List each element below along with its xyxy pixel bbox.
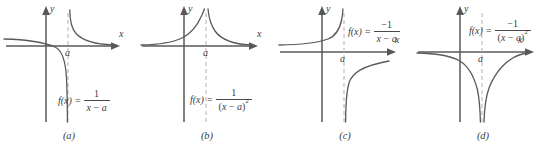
asymptote-tick-label-a: a (478, 54, 483, 64)
y-axis-arrowhead (318, 6, 326, 15)
y-axis-arrowhead (180, 6, 188, 15)
formula-panel-d: f(x) = −1 (x − a)2 (469, 19, 531, 43)
curve-left-branch (279, 9, 343, 45)
denominator-operator: − (381, 33, 392, 44)
formula-denominator: (x − a)2 (216, 99, 252, 112)
formula-equals: = (207, 95, 213, 105)
formula-lhs: f(x) (469, 26, 483, 36)
y-axis-label: y (50, 4, 54, 14)
denominator-operator: − (91, 102, 102, 113)
formula-equals: = (365, 27, 371, 37)
formula-equals: = (486, 26, 492, 36)
formula-fraction: −1 (x − a)2 (495, 19, 531, 43)
formula-lhs: f(x) (190, 95, 204, 105)
denominator-exponent: 2 (245, 97, 249, 105)
curve-right-branch (70, 10, 113, 45)
x-axis-label: x (119, 29, 123, 39)
panel-caption-b: (b) (138, 131, 276, 142)
y-axis-label: y (188, 4, 192, 14)
denominator-parameter: a (392, 33, 397, 44)
y-axis-label: y (464, 4, 468, 14)
formula-fraction: 1 (x − a)2 (216, 88, 252, 112)
denominator-exponent: 2 (524, 28, 528, 36)
formula-numerator: 1 (228, 88, 239, 99)
panel-c: x y a f(x) = −1 x − a (c) (276, 0, 414, 150)
curve-right-branch (208, 9, 251, 45)
formula-denominator: x − a (84, 100, 110, 113)
denominator-parameter: a (102, 102, 107, 113)
y-axis-arrowhead (456, 6, 464, 15)
panel-a: x y a f(x) = 1 x − a (a) (0, 0, 138, 150)
x-axis-arrowhead (525, 48, 534, 56)
formula-fraction: 1 x − a (84, 89, 110, 113)
panel-d: x y a f(x) = −1 (x − a)2 (d) (414, 0, 552, 150)
formula-panel-c: f(x) = −1 x − a (348, 20, 400, 44)
formula-lhs: f(x) (58, 96, 72, 106)
formula-panel-b: f(x) = 1 (x − a)2 (190, 88, 252, 112)
denominator-operator: − (505, 32, 516, 43)
x-axis-arrowhead (111, 42, 120, 50)
panel-caption-d: (d) (414, 131, 552, 142)
panel-caption-c: (c) (276, 131, 414, 142)
curve-right-branch (484, 53, 527, 122)
formula-denominator: x − a (374, 31, 400, 44)
panel-b: x y a f(x) = 1 (x − a)2 (b) (138, 0, 276, 150)
curve-left-branch (417, 53, 480, 122)
x-axis-arrowhead (387, 48, 396, 56)
asymptote-tick-label-a: a (340, 54, 345, 64)
rational-function-figure: x y a f(x) = 1 x − a (a) x y a (0, 0, 553, 150)
formula-numerator: −1 (378, 20, 395, 31)
asymptote-tick-label-a: a (65, 48, 70, 58)
formula-numerator: 1 (91, 89, 102, 100)
formula-denominator: (x − a)2 (495, 30, 531, 43)
formula-fraction: −1 x − a (374, 20, 400, 44)
curve-left-branch (141, 9, 204, 45)
formula-lhs: f(x) (348, 27, 362, 37)
asymptote-tick-label-a: a (203, 48, 208, 58)
formula-panel-a: f(x) = 1 x − a (58, 89, 110, 113)
y-axis-label: y (326, 4, 330, 14)
x-axis-arrowhead (249, 42, 258, 50)
denominator-operator: − (226, 101, 237, 112)
curve-right-branch (346, 61, 389, 122)
x-axis-label: x (257, 29, 261, 39)
y-axis-arrowhead (42, 6, 50, 15)
formula-numerator: −1 (504, 19, 521, 30)
panel-caption-a: (a) (0, 131, 138, 142)
formula-equals: = (75, 96, 81, 106)
